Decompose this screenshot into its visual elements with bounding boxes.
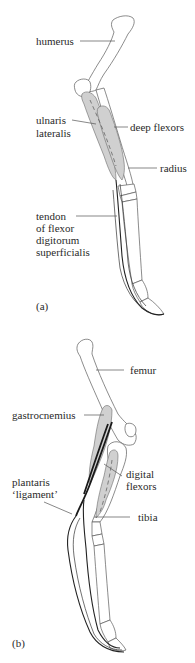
label-plantaris-2: ‘ligament’ xyxy=(12,488,58,500)
label-tendon-1: tendon xyxy=(36,210,66,222)
label-digital-2: flexors xyxy=(126,480,157,492)
label-humerus: humerus xyxy=(36,35,74,47)
humerus-bone xyxy=(84,16,134,92)
label-gastrocnemius: gastrocnemius xyxy=(12,409,76,421)
panel-a-forelimb: humerus ulnaris lateralis deep flexors r… xyxy=(36,16,187,315)
label-femur: femur xyxy=(130,364,157,376)
metacarpus xyxy=(122,199,142,284)
label-tendon-2: of flexor xyxy=(36,222,75,234)
label-plantaris-1: plantaris xyxy=(12,476,50,488)
anatomy-diagram: humerus ulnaris lateralis deep flexors r… xyxy=(0,0,195,663)
label-tibia: tibia xyxy=(138,511,158,523)
panel-b-hindlimb: femur gastrocnemius digital flexors plan… xyxy=(12,339,158,652)
panel-label-b: (b) xyxy=(12,637,25,650)
label-radius: radius xyxy=(160,162,187,174)
hind-phalanx-1 xyxy=(100,620,116,642)
plantaris-leader xyxy=(44,502,72,514)
label-tendon-4: superficialis xyxy=(36,246,90,258)
label-tendon-3: digitorum xyxy=(36,234,80,246)
patella xyxy=(125,423,136,437)
label-ulnaris-1: ulnaris xyxy=(36,114,66,126)
panel-label-a: (a) xyxy=(36,300,49,313)
label-deep-flexors: deep flexors xyxy=(130,121,184,133)
metatarsus xyxy=(94,544,110,624)
tarsus xyxy=(92,522,102,536)
label-digital-1: digital xyxy=(126,468,154,480)
label-ulnaris-2: lateralis xyxy=(36,127,71,139)
phalanx-2 xyxy=(140,298,164,315)
